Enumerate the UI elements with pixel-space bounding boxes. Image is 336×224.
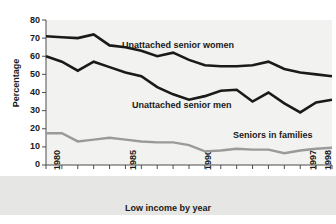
y-axis-ticks (42, 20, 46, 165)
series-line-unattached-senior-men (46, 56, 332, 112)
chart-canvas (0, 0, 336, 224)
axis-lines (46, 20, 332, 165)
series-line-seniors-in-families (46, 133, 332, 153)
series-lines (46, 35, 332, 154)
low-income-line-chart: Percentage 80 70 60 50 40 30 20 10 0 198… (0, 0, 336, 224)
series-line-unattached-senior-women (46, 35, 332, 77)
x-axis-ticks (46, 165, 332, 169)
